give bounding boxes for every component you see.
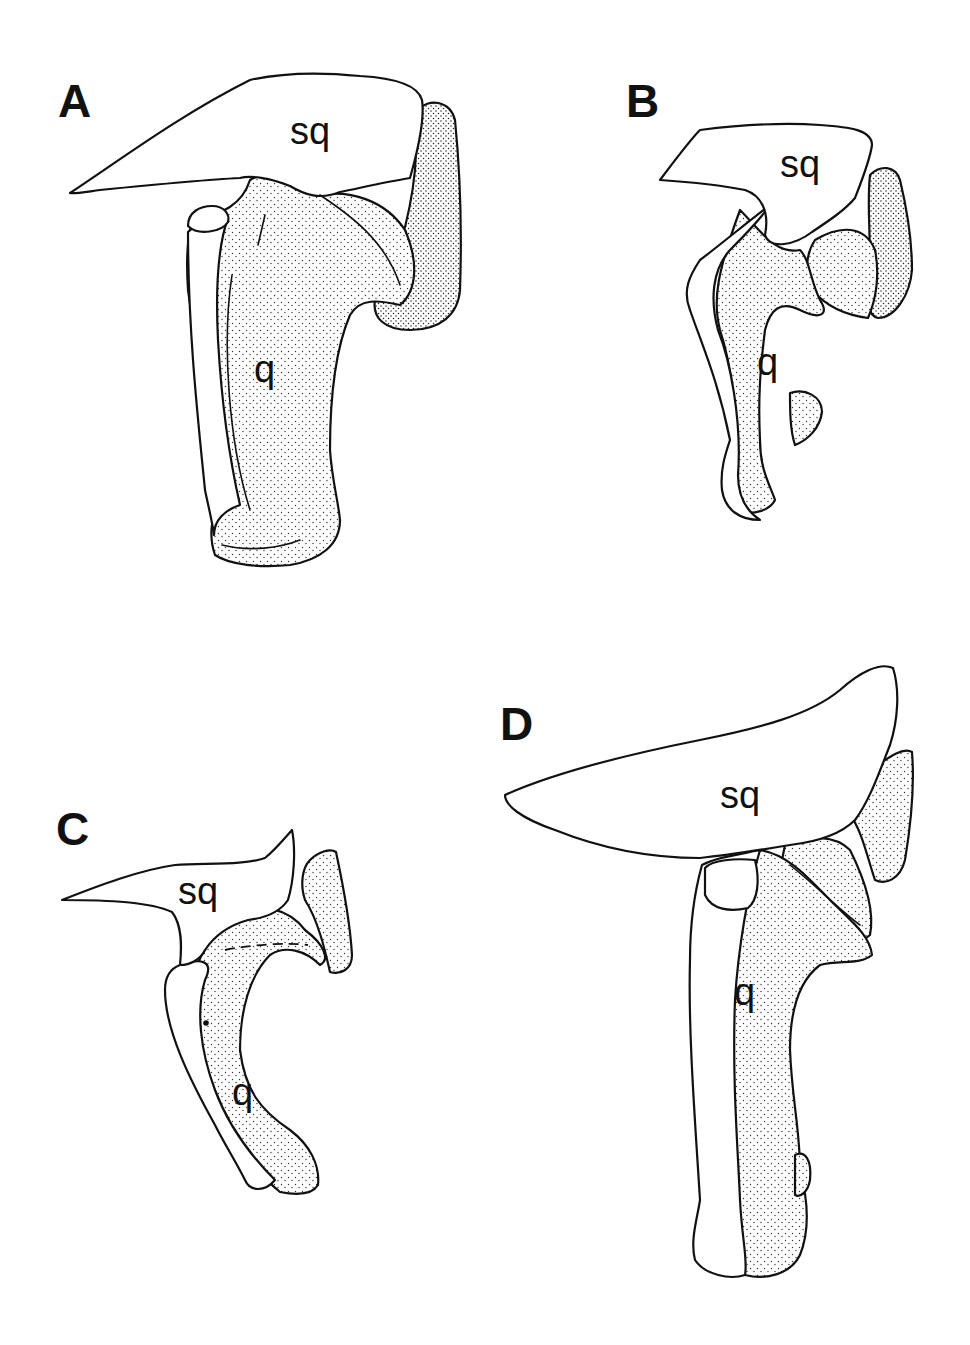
panel-letter-a: A bbox=[58, 75, 91, 127]
panel-letter-d: D bbox=[500, 698, 533, 750]
squamosal-a bbox=[70, 73, 423, 196]
label-sq-a: sq bbox=[290, 110, 330, 152]
panel-b: B sq q bbox=[626, 75, 912, 520]
squamosal-b bbox=[660, 124, 872, 244]
panel-c: C sq q bbox=[56, 803, 352, 1194]
label-sq-b: sq bbox=[780, 143, 820, 185]
label-q-d: q bbox=[734, 971, 755, 1013]
panel-a: A sq q bbox=[58, 73, 461, 566]
condyle-a bbox=[188, 206, 228, 232]
label-q-a: q bbox=[254, 348, 275, 390]
quadrate-foot-b bbox=[790, 392, 822, 445]
quadrate-c bbox=[190, 908, 325, 1194]
label-sq-d: sq bbox=[720, 774, 760, 816]
panel-letter-b: B bbox=[626, 75, 659, 127]
condyle-d bbox=[705, 859, 758, 910]
panel-d: D sq q bbox=[500, 666, 913, 1277]
label-sq-c: sq bbox=[178, 870, 218, 912]
squamosal-d bbox=[505, 666, 897, 858]
label-q-b: q bbox=[757, 341, 778, 383]
label-q-c: q bbox=[232, 1071, 253, 1113]
figure-canvas: A sq q B sq q C bbox=[0, 0, 970, 1345]
foramen-dot-c bbox=[203, 1020, 209, 1026]
panel-letter-c: C bbox=[56, 803, 89, 855]
quadrate-foot-d bbox=[795, 1154, 810, 1196]
